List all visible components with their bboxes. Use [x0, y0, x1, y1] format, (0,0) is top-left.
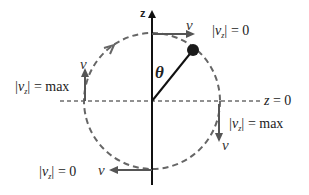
velocity-label-right: v	[222, 138, 229, 153]
z-axis-label: z	[140, 8, 146, 19]
annotation-left: |vz| = max	[15, 79, 69, 96]
z-zero-label: z = 0	[264, 94, 291, 108]
velocity-label-bottom: v	[98, 163, 105, 178]
annotation-top: |vz| = 0	[212, 23, 249, 40]
angle-theta-label: θ	[155, 64, 164, 81]
velocity-label-top: v	[186, 18, 193, 33]
velocity-label-left: v	[80, 57, 87, 72]
annotation-right: |vz| = max	[229, 116, 283, 133]
particle-ball	[187, 44, 199, 56]
annotation-bottom: |vz| = 0	[39, 164, 76, 181]
